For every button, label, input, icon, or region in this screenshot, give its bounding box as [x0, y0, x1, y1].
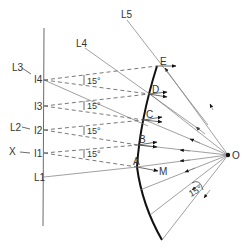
ray-l1 [44, 167, 137, 177]
arrow [180, 150, 190, 151]
leader-l2 [22, 127, 30, 129]
leader-x [20, 152, 30, 153]
label-l4: L4 [76, 38, 88, 49]
label-a: A [133, 156, 140, 167]
diagram-canvas: O A B C D E M I4 I3 I2 I1 L1 L2 L3 L4 L5… [0, 0, 246, 248]
arrow [185, 168, 195, 172]
label-i4: I4 [34, 74, 43, 85]
arrow [180, 160, 190, 161]
label-l5: L5 [121, 9, 133, 20]
label-i3: I3 [34, 101, 43, 112]
arrow [204, 190, 210, 198]
image-plane-line [43, 28, 44, 226]
label-o: O [232, 150, 240, 161]
leader-l3 [22, 68, 31, 74]
angle-label-i1: 15° [87, 149, 101, 159]
arrow [190, 139, 200, 143]
label-i2: I2 [34, 125, 43, 136]
label-x: X [9, 146, 16, 157]
label-l3: L3 [12, 62, 24, 73]
angle-label-i4: 15° [87, 76, 101, 86]
label-e: E [160, 56, 167, 67]
angle-label-i2: 15° [87, 126, 101, 136]
ray-l4 [85, 48, 200, 130]
angle-label-i3: 15° [87, 101, 101, 111]
label-c: C [146, 109, 153, 120]
label-d: D [152, 84, 159, 95]
label-l1: L1 [34, 172, 46, 183]
label-l2: L2 [10, 122, 22, 133]
arrow-b2 [138, 145, 157, 147]
source-point-o [226, 153, 230, 157]
arrow-a-m [137, 167, 158, 171]
ray-o-d [150, 94, 228, 155]
label-b: B [139, 134, 146, 145]
arrow [210, 104, 213, 110]
label-i1: I1 [34, 148, 43, 159]
ray-l5 [127, 20, 208, 125]
label-m: M [159, 166, 167, 177]
